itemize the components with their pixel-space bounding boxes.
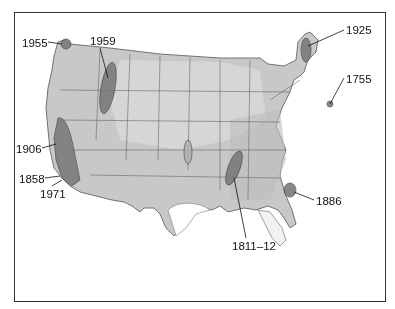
label-1811-12: 1811–12 xyxy=(232,241,276,253)
label-1755: 1755 xyxy=(346,74,372,86)
zone-1955 xyxy=(61,39,71,49)
label-1955: 1955 xyxy=(22,38,48,50)
label-1971: 1971 xyxy=(40,189,66,201)
us-earthquake-map xyxy=(0,0,395,309)
label-1959: 1959 xyxy=(90,36,116,48)
label-1906: 1906 xyxy=(16,144,42,156)
label-1886: 1886 xyxy=(316,196,342,208)
label-1858: 1858 xyxy=(19,174,45,186)
zone-1925 xyxy=(301,38,311,62)
zone-1886 xyxy=(284,183,296,197)
label-1925: 1925 xyxy=(346,25,372,37)
